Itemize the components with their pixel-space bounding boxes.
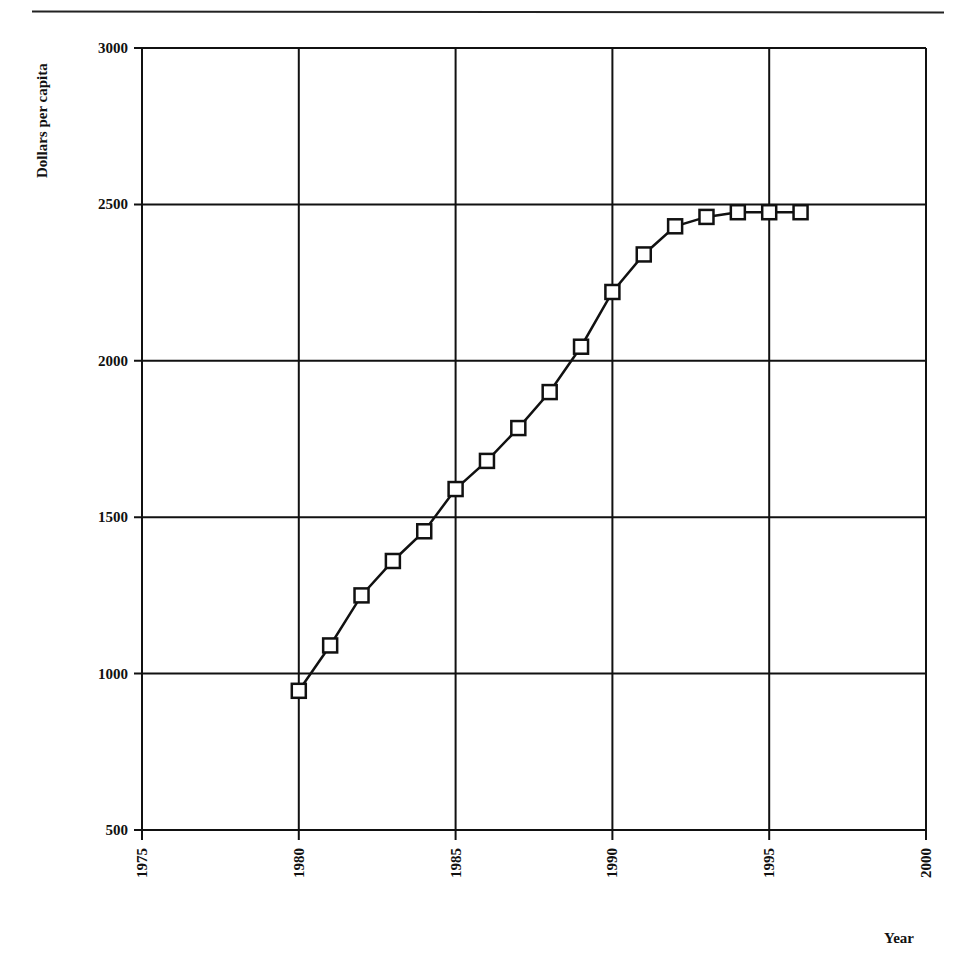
- x-axis-ticks: 197519801985199019952000: [134, 848, 934, 878]
- x-tick-label: 1995: [761, 848, 777, 878]
- data-series: [292, 205, 808, 698]
- x-tick-label: 2000: [918, 848, 934, 878]
- square-marker-icon: [511, 421, 525, 435]
- square-marker-icon: [323, 638, 337, 652]
- square-marker-icon: [762, 205, 776, 219]
- y-axis-ticks: 50010001500200025003000: [98, 40, 128, 838]
- square-marker-icon: [668, 219, 682, 233]
- x-tick-label: 1975: [134, 848, 150, 878]
- y-tick-label: 500: [106, 822, 129, 838]
- square-marker-icon: [605, 285, 619, 299]
- x-tick-label: 1990: [604, 848, 620, 878]
- square-marker-icon: [417, 524, 431, 538]
- square-marker-icon: [480, 454, 494, 468]
- square-marker-icon: [794, 205, 808, 219]
- chart-grid: [134, 48, 926, 840]
- y-tick-label: 2000: [98, 353, 128, 369]
- y-tick-label: 1000: [98, 666, 128, 682]
- series-line: [299, 212, 801, 691]
- x-tick-label: 1985: [448, 848, 464, 878]
- square-marker-icon: [731, 205, 745, 219]
- y-tick-label: 1500: [98, 509, 128, 525]
- line-chart: 50010001500200025003000 1975198019851990…: [0, 0, 970, 970]
- y-tick-label: 2500: [98, 196, 128, 212]
- square-marker-icon: [386, 554, 400, 568]
- x-tick-label: 1980: [291, 848, 307, 878]
- square-marker-icon: [292, 684, 306, 698]
- y-tick-label: 3000: [98, 40, 128, 56]
- square-marker-icon: [637, 247, 651, 261]
- square-marker-icon: [699, 210, 713, 224]
- square-marker-icon: [355, 588, 369, 602]
- square-marker-icon: [449, 482, 463, 496]
- square-marker-icon: [543, 385, 557, 399]
- square-marker-icon: [574, 340, 588, 354]
